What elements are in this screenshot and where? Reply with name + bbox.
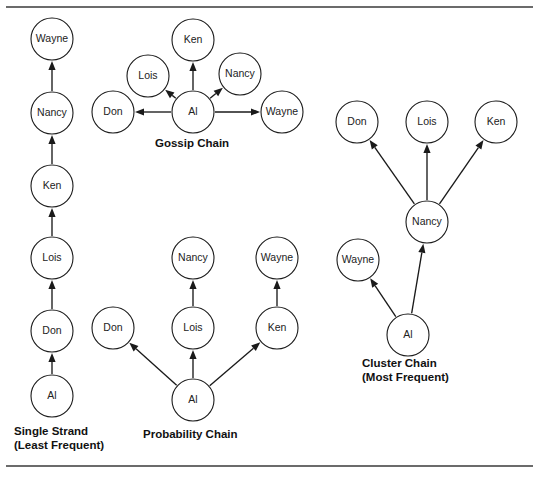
arrow-head-icon [251,108,260,115]
arrow-head-icon [48,353,55,362]
node-label: Nancy [37,106,68,118]
node-label: Lois [183,321,202,333]
node-ss-nancy[interactable]: Nancy [31,92,73,134]
node-label: Ken [184,33,203,45]
edge-shaft [136,349,177,386]
node-g-lois[interactable]: Lois [127,55,169,97]
edge-ss-lois-to-ss-ken [48,208,55,236]
node-c-ken[interactable]: Ken [475,101,517,143]
node-label: Wayne [36,32,68,44]
edge-ss-al-to-ss-don [48,353,55,374]
node-label: Al [188,393,197,405]
node-g-don[interactable]: Don [92,91,134,133]
edge-p-al-to-p-don [129,343,176,386]
node-label: Nancy [412,215,443,227]
node-label: Al [403,328,412,340]
edge-p-ken-to-p-wayne [273,280,280,306]
arrow-head-icon [475,140,483,149]
edge-shaft [412,253,422,314]
arrow-head-icon [48,280,55,289]
edge-c-nancy-to-c-don [370,140,415,204]
arrow-head-icon [370,140,378,149]
node-p-nancy[interactable]: Nancy [172,237,214,279]
node-p-al[interactable]: Al [172,379,214,421]
node-ss-lois[interactable]: Lois [31,237,73,279]
edge-shaft [210,93,216,98]
node-label: Al [188,105,197,117]
figure-canvas: AlDonLoisKenNancyWayneAlDonWayneLoisNanc… [0,0,539,478]
edge-p-al-to-p-lois [189,350,196,378]
node-c-wayne[interactable]: Wayne [337,239,379,281]
node-p-wayne[interactable]: Wayne [256,237,298,279]
edge-c-nancy-to-c-ken [439,140,483,204]
node-label: Ken [268,321,287,333]
edge-ss-nancy-to-ss-wayne [48,61,55,91]
arrow-head-icon [418,244,425,253]
node-c-don[interactable]: Don [336,101,378,143]
arrow-head-icon [189,62,196,71]
edge-ss-ken-to-ss-nancy [48,135,55,164]
caption-gossip-chain: Gossip Chain [155,137,229,151]
edge-g-al-to-g-wayne [215,108,260,115]
node-label: Wayne [261,251,293,263]
node-label: Ken [43,179,62,191]
arrow-head-icon [273,280,280,289]
node-label: Nancy [225,67,256,79]
node-p-don[interactable]: Don [92,307,134,349]
node-c-nancy[interactable]: Nancy [406,201,448,243]
node-label: Nancy [178,251,209,263]
edge-p-lois-to-p-nancy [189,280,196,306]
node-label: Lois [42,251,61,263]
node-label: Wayne [266,105,298,117]
node-ss-don[interactable]: Don [31,310,73,352]
arrow-head-icon [189,280,196,289]
node-label: Lois [417,115,436,127]
arrow-head-icon [370,278,378,287]
edge-shaft [375,286,396,317]
arrow-head-icon [48,135,55,144]
edge-g-al-to-g-lois [165,90,176,99]
edge-shaft [172,95,176,98]
edge-g-al-to-g-ken [189,62,196,90]
network-diagram: AlDonLoisKenNancyWayneAlDonWayneLoisNanc… [0,0,539,478]
edge-shaft [210,348,254,386]
edge-ss-don-to-ss-lois [48,280,55,309]
edge-c-al-to-c-wayne [370,278,396,316]
node-g-al[interactable]: Al [172,91,214,133]
node-ss-al[interactable]: Al [31,375,73,417]
edge-g-al-to-g-nancy [210,88,223,98]
edge-c-al-to-c-nancy [412,244,426,314]
node-p-ken[interactable]: Ken [256,307,298,349]
node-label: Lois [138,69,157,81]
arrow-head-icon [135,108,144,115]
arrow-head-icon [48,61,55,70]
node-ss-ken[interactable]: Ken [31,165,73,207]
edge-c-nancy-to-c-lois [423,144,430,200]
node-label: Al [47,389,56,401]
edge-g-al-to-g-don [135,108,171,115]
node-label: Don [347,115,366,127]
arrow-head-icon [48,208,55,217]
node-c-lois[interactable]: Lois [406,101,448,143]
caption-cluster-chain: Cluster Chain (Most Frequent) [362,357,449,384]
arrow-head-icon [423,144,430,153]
node-label: Ken [487,115,506,127]
node-label: Don [103,105,122,117]
caption-single-strand: Single Strand (Least Frequent) [14,425,104,452]
node-label: Don [103,321,122,333]
caption-probability-chain: Probability Chain [143,428,238,442]
node-ss-wayne[interactable]: Wayne [31,18,73,60]
arrow-head-icon [189,350,196,359]
edge-shaft [439,148,478,204]
node-g-nancy[interactable]: Nancy [219,53,261,95]
node-p-lois[interactable]: Lois [172,307,214,349]
node-label: Don [42,324,61,336]
node-label: Wayne [342,253,374,265]
node-g-ken[interactable]: Ken [172,19,214,61]
node-g-wayne[interactable]: Wayne [261,91,303,133]
node-c-al[interactable]: Al [387,314,429,356]
edge-shaft [375,147,415,204]
edge-p-al-to-p-ken [210,342,261,385]
